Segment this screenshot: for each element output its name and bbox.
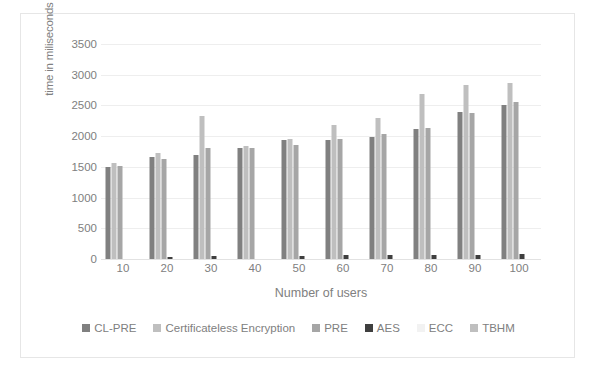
bar: [476, 255, 481, 259]
bar: [112, 163, 117, 259]
bar: [344, 255, 349, 259]
legend-swatch-icon: [153, 324, 161, 332]
legend-swatch-icon: [417, 324, 425, 332]
bar: [250, 148, 255, 259]
y-axis-tick: 0: [57, 253, 97, 265]
y-axis-tick: 1000: [57, 192, 97, 204]
x-axis-tick-labels: 102030405060708090100: [101, 262, 541, 274]
legend-swatch-icon: [82, 324, 90, 332]
y-axis-tick-labels: 0500100015002000250030003500: [57, 44, 97, 259]
bar-group: [277, 44, 321, 259]
x-axis-tick: 100: [497, 262, 541, 274]
bar: [458, 112, 463, 259]
bars: [458, 44, 493, 259]
bar-group: [233, 44, 277, 259]
bars: [238, 44, 273, 259]
x-axis-tick: 80: [409, 262, 453, 274]
bar: [206, 148, 211, 259]
bar: [238, 148, 243, 259]
y-axis-tick: 500: [57, 222, 97, 234]
legend-swatch-icon: [312, 324, 320, 332]
bars: [194, 44, 229, 259]
y-axis-tick: 2500: [57, 99, 97, 111]
plot-area: [101, 44, 541, 259]
y-axis-tick: 1500: [57, 161, 97, 173]
bar: [288, 139, 293, 259]
bar: [426, 128, 431, 259]
bar: [464, 85, 469, 259]
bar-groups: [101, 44, 541, 259]
bar: [332, 125, 337, 259]
bar: [420, 94, 425, 259]
chart-frame: time in miliseconds 05001000150020002500…: [20, 13, 575, 358]
bar-group: [321, 44, 365, 259]
y-axis-title: time in miliseconds: [43, 0, 55, 124]
bars: [282, 44, 317, 259]
bar: [282, 140, 287, 259]
legend-label: PRE: [324, 322, 348, 334]
bar: [150, 157, 155, 259]
bar-group: [409, 44, 453, 259]
legend-label: ECC: [429, 322, 453, 334]
bar-group: [189, 44, 233, 259]
bar: [326, 140, 331, 259]
legend-label: AES: [377, 322, 400, 334]
bars: [370, 44, 405, 259]
bar: [300, 256, 305, 259]
bar-group: [101, 44, 145, 259]
bar: [382, 134, 387, 259]
bar: [370, 137, 375, 259]
bar: [118, 166, 123, 259]
x-axis-tick: 90: [453, 262, 497, 274]
bar: [376, 118, 381, 259]
bar-group: [365, 44, 409, 259]
legend-item[interactable]: TBHM: [470, 322, 515, 334]
legend-item[interactable]: AES: [365, 322, 400, 334]
legend-item[interactable]: CL-PRE: [82, 322, 136, 334]
legend-item[interactable]: PRE: [312, 322, 348, 334]
x-axis-tick: 20: [145, 262, 189, 274]
bars: [150, 44, 185, 259]
y-axis-tick: 3500: [57, 38, 97, 50]
bar: [338, 139, 343, 259]
bar: [294, 145, 299, 259]
plot-wrapper: time in miliseconds 05001000150020002500…: [21, 14, 576, 359]
bar-group: [453, 44, 497, 259]
bar: [156, 153, 161, 259]
bar: [508, 83, 513, 259]
x-axis-tick: 70: [365, 262, 409, 274]
legend-label: TBHM: [482, 322, 515, 334]
bar-group: [497, 44, 541, 259]
bar: [200, 116, 205, 259]
legend-label: Certificateless Encryption: [165, 322, 295, 334]
bar: [212, 256, 217, 259]
bars: [414, 44, 449, 259]
bar: [414, 129, 419, 259]
x-axis-title: Number of users: [101, 286, 541, 300]
bar: [106, 167, 111, 259]
legend-swatch-icon: [365, 324, 373, 332]
bar: [502, 105, 507, 259]
bar: [162, 159, 167, 259]
bar: [244, 146, 249, 259]
bar: [470, 113, 475, 259]
bars: [502, 44, 537, 259]
bar: [432, 255, 437, 259]
y-axis-tick: 2000: [57, 130, 97, 142]
x-axis-tick: 50: [277, 262, 321, 274]
bar: [388, 255, 393, 259]
bar: [168, 257, 173, 259]
bar: [520, 254, 525, 259]
x-axis-tick: 10: [101, 262, 145, 274]
bar: [194, 155, 199, 259]
legend-item[interactable]: ECC: [417, 322, 453, 334]
y-axis-tick: 3000: [57, 69, 97, 81]
legend-label: CL-PRE: [94, 322, 136, 334]
x-axis-tick: 60: [321, 262, 365, 274]
bars: [106, 44, 141, 259]
bar: [514, 102, 519, 259]
bars: [326, 44, 361, 259]
chart-legend: CL-PRECertificateless EncryptionPREAESEC…: [21, 322, 576, 334]
x-axis-tick: 40: [233, 262, 277, 274]
legend-item[interactable]: Certificateless Encryption: [153, 322, 295, 334]
